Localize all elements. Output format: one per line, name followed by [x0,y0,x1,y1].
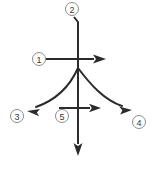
callout-5[interactable]: 5 [56,110,69,123]
callout-1[interactable]: 1 [33,53,46,66]
callout-4-label: 4 [136,118,141,128]
diagram-canvas: 1 2 3 4 5 [0,0,160,170]
horizontal-right-arrowhead [93,55,106,64]
callout-4[interactable]: 4 [133,116,146,129]
callout-5-label: 5 [59,112,64,122]
callout-1-label: 1 [36,55,41,65]
curve-left-line [36,68,78,107]
force-vector-diagram: 1 2 3 4 5 [0,0,160,170]
vertical-down-arrowhead [74,143,83,156]
callout-2-label: 2 [69,5,74,15]
curve-left-arrowhead [27,109,40,116]
curve-right-line [78,68,122,106]
callout-2[interactable]: 2 [66,3,79,16]
curve-right-arrowhead [119,107,132,115]
lower-horizontal-arrowhead [89,104,101,112]
callout-3[interactable]: 3 [11,110,24,123]
callout-3-label: 3 [14,112,19,122]
